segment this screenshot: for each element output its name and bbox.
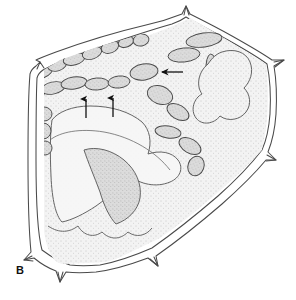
figure-panel-b: B — [0, 0, 296, 300]
cell-diagram-svg — [0, 0, 296, 300]
panel-label: B — [16, 264, 24, 276]
